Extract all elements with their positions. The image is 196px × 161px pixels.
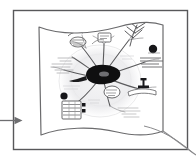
screenshot-canvas: slide-frame wavy-banner mind-map-sketch … [0, 0, 196, 161]
branch-lower-mid-cluster [104, 86, 120, 98]
dot-right [149, 45, 157, 53]
illustration-svg [0, 0, 196, 161]
dot-left [60, 92, 67, 99]
center-blob-highlight [99, 71, 109, 76]
